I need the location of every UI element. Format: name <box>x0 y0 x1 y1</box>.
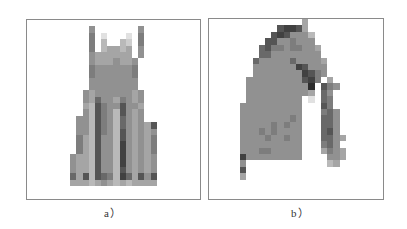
caption-a: a） <box>104 204 122 220</box>
caption-b: b） <box>291 204 310 220</box>
figure-panel-a-dress <box>26 19 201 200</box>
figure-panel-b-jacket <box>208 18 384 200</box>
jacket-pixel-image <box>209 19 383 199</box>
dress-pixel-image <box>27 20 200 199</box>
